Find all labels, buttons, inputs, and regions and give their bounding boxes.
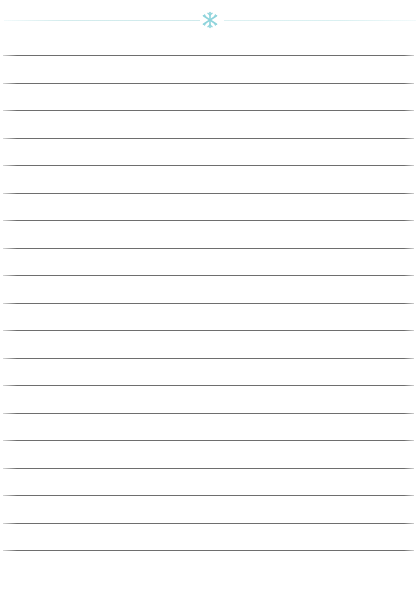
ruled-lines-area bbox=[0, 0, 420, 591]
writing-rule-line bbox=[3, 495, 414, 496]
writing-rule-line bbox=[3, 358, 414, 359]
writing-rule-line bbox=[3, 248, 414, 249]
writing-rule-line bbox=[3, 83, 414, 84]
writing-rule-line bbox=[3, 110, 414, 111]
writing-rule-line bbox=[3, 165, 414, 166]
writing-rule-line bbox=[3, 413, 414, 414]
writing-rule-line bbox=[3, 55, 414, 56]
writing-rule-line bbox=[3, 385, 414, 386]
writing-rule-line bbox=[3, 330, 414, 331]
writing-rule-line bbox=[3, 193, 414, 194]
writing-rule-line bbox=[3, 303, 414, 304]
lined-paper-page bbox=[0, 0, 420, 591]
writing-rule-line bbox=[3, 550, 414, 551]
writing-rule-line bbox=[3, 523, 414, 524]
writing-rule-line bbox=[3, 275, 414, 276]
writing-rule-line bbox=[3, 468, 414, 469]
writing-rule-line bbox=[3, 138, 414, 139]
writing-rule-line bbox=[3, 220, 414, 221]
writing-rule-line bbox=[3, 440, 414, 441]
